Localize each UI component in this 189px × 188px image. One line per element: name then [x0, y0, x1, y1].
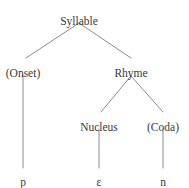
tree-edge-syllable-rhyme	[79, 23, 131, 58]
tree-node-seg-p: p	[20, 177, 26, 188]
tree-edges-layer	[0, 0, 189, 188]
tree-node-coda: (Coda)	[147, 122, 179, 134]
syllable-tree-diagram: Syllable(Onset)RhymeNucleus(Coda)pɛn	[0, 0, 189, 188]
tree-node-syllable: Syllable	[60, 16, 98, 28]
tree-edge-rhyme-coda	[131, 76, 163, 112]
tree-node-onset: (Onset)	[6, 68, 41, 80]
tree-node-seg-e: ɛ	[97, 177, 102, 188]
tree-node-rhyme: Rhyme	[114, 68, 147, 80]
tree-edge-rhyme-nucleus	[101, 76, 131, 112]
tree-node-nucleus: Nucleus	[80, 122, 118, 134]
tree-edge-syllable-onset	[26, 23, 79, 58]
tree-node-seg-n: n	[160, 177, 166, 188]
